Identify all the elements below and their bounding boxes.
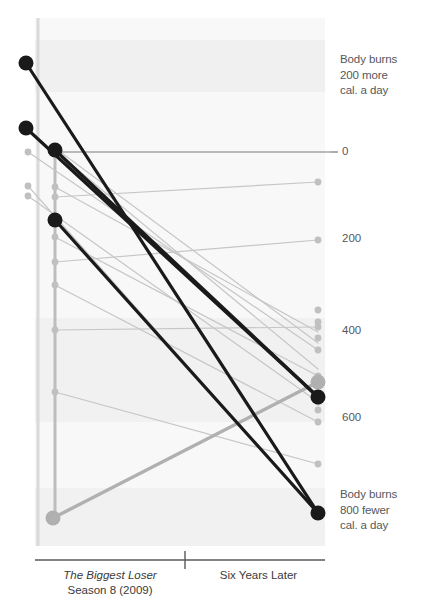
chart-container: Body burns 200 more cal. a day Body burn… xyxy=(0,0,428,614)
annotation-bottom-note: Body burns 800 fewer cal. a day xyxy=(340,487,397,534)
y-tick-label-200: 200 xyxy=(342,232,361,244)
annotation-bottom-line2: 800 fewer xyxy=(340,503,397,519)
annotation-top-line3: cal. a day xyxy=(340,83,397,99)
x-axis-label-left-line1: The Biggest Loser xyxy=(35,568,185,583)
x-axis-label-right-line1: Six Years Later xyxy=(186,568,331,583)
plot-background xyxy=(35,18,325,546)
y-tick-label-600: 600 xyxy=(342,411,361,423)
annotation-top-note: Body burns 200 more cal. a day xyxy=(340,52,397,99)
annotation-bottom-line3: cal. a day xyxy=(340,518,397,534)
y-tick-label-0: 0 xyxy=(342,145,348,157)
x-axis-label-right: Six Years Later xyxy=(186,568,331,583)
annotation-bottom-line1: Body burns xyxy=(340,487,397,503)
annotation-top-line2: 200 more xyxy=(340,68,397,84)
x-axis-label-left-line2: Season 8 (2009) xyxy=(35,583,185,598)
x-axis-label-left: The Biggest Loser Season 8 (2009) xyxy=(35,568,185,598)
annotation-top-line1: Body burns xyxy=(340,52,397,68)
y-tick-label-400: 400 xyxy=(342,324,361,336)
